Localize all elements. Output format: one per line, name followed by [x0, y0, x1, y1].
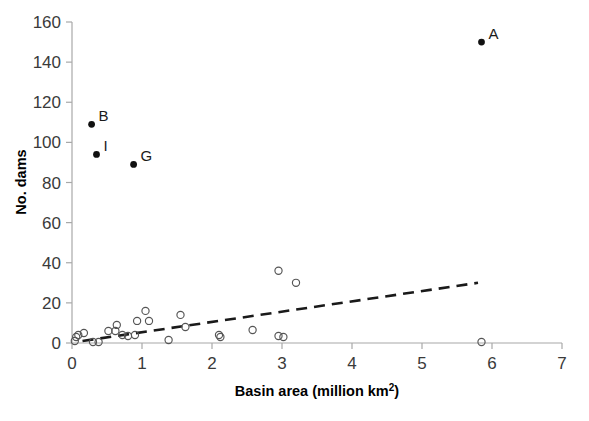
- data-point-open: [134, 317, 141, 324]
- x-tick-label: 3: [277, 354, 286, 373]
- data-point-label: B: [99, 107, 109, 124]
- x-tick-label: 7: [557, 354, 566, 373]
- filled-circle-markers: ABIG: [88, 25, 498, 168]
- data-point-label: I: [104, 137, 108, 154]
- y-tick-label: 60: [42, 214, 61, 233]
- data-point-open: [217, 333, 224, 340]
- data-point-open: [275, 332, 282, 339]
- y-axis-ticks: 020406080100120140160: [33, 13, 72, 353]
- data-point-label: G: [141, 147, 153, 164]
- x-tick-label: 1: [137, 354, 146, 373]
- y-tick-label: 80: [42, 174, 61, 193]
- y-tick-label: 20: [42, 294, 61, 313]
- x-tick-label: 5: [417, 354, 426, 373]
- data-point-open: [131, 331, 138, 338]
- data-point-labelled: [88, 121, 95, 128]
- y-tick-label: 100: [33, 133, 61, 152]
- axis-lines: [72, 22, 562, 343]
- data-point-open: [275, 267, 282, 274]
- y-axis-title: No. dams: [13, 149, 29, 214]
- data-point-open: [182, 323, 189, 330]
- data-point-labelled: [93, 151, 100, 158]
- y-tick-label: 120: [33, 93, 61, 112]
- x-tick-label: 2: [207, 354, 216, 373]
- data-point-open: [142, 307, 149, 314]
- data-point-labelled: [130, 161, 137, 168]
- data-point-open: [145, 317, 152, 324]
- data-point-open: [249, 326, 256, 333]
- chart-figure: 020406080100120140160 01234567 ABIG Basi…: [0, 0, 589, 421]
- x-tick-label: 0: [67, 354, 76, 373]
- y-tick-label: 140: [33, 53, 61, 72]
- data-point-open: [105, 327, 112, 334]
- scatter-plot-canvas: 020406080100120140160 01234567 ABIG Basi…: [0, 0, 589, 421]
- data-point-open: [280, 333, 287, 340]
- y-tick-label: 40: [42, 254, 61, 273]
- x-axis-ticks: 01234567: [67, 343, 566, 373]
- x-tick-label: 4: [347, 354, 356, 373]
- x-tick-label: 6: [487, 354, 496, 373]
- y-tick-label: 160: [33, 13, 61, 32]
- x-axis-title: Basin area (million km2): [235, 382, 399, 399]
- data-point-open: [177, 311, 184, 318]
- data-point-labelled: [478, 39, 485, 46]
- data-point-label: A: [489, 25, 499, 42]
- data-point-open: [292, 279, 299, 286]
- y-tick-label: 0: [52, 334, 61, 353]
- data-point-open: [478, 338, 485, 345]
- open-circle-markers: [71, 267, 485, 345]
